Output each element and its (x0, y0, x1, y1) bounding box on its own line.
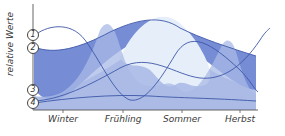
x-label-winter: Winter (48, 114, 78, 124)
series-marker-2: 2 (27, 42, 39, 54)
x-label-fruehling: Frühling (105, 114, 142, 124)
y-axis-label: relative Werte (3, 4, 17, 84)
x-label-sommer: Sommer (163, 114, 201, 124)
series-marker-1: 1 (27, 29, 39, 41)
series-marker-3: 3 (27, 84, 39, 96)
series-marker-4: 4 (27, 97, 39, 109)
x-label-herbst: Herbst (225, 114, 255, 124)
